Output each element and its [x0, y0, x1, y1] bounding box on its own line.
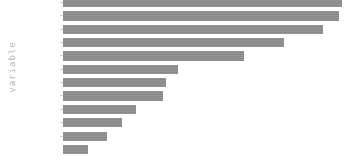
bar [63, 105, 136, 114]
plot-area: C8 C11 C2 C14 C12 C13 [0, 0, 363, 166]
bar [63, 51, 244, 60]
bar [63, 11, 339, 20]
bar [63, 78, 166, 87]
bar [63, 118, 122, 127]
bar [63, 38, 284, 47]
bar [63, 132, 107, 141]
bar-chart: variable C8 C11 C2 C14 C12 C1 [0, 0, 363, 166]
bar [63, 65, 178, 74]
bar [63, 25, 323, 34]
bar [63, 0, 342, 7]
bar [63, 145, 88, 154]
bar [63, 91, 163, 100]
